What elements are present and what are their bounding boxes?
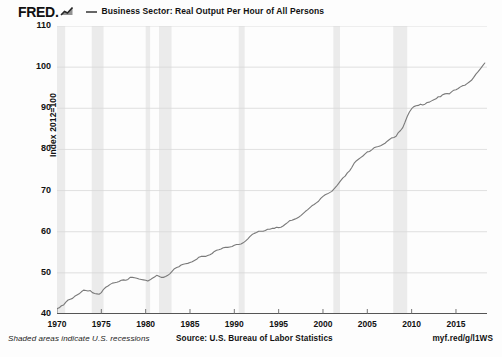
y-axis-tick-label: 110 bbox=[21, 20, 51, 30]
y-axis-tick-label: 80 bbox=[21, 143, 51, 153]
plot-area bbox=[57, 26, 487, 314]
chart-legend: Business Sector: Real Output Per Hour of… bbox=[86, 6, 325, 16]
x-axis-tick-label: 2000 bbox=[303, 319, 343, 329]
y-axis-tick-label: 60 bbox=[21, 226, 51, 236]
x-axis-tick-label: 2015 bbox=[436, 319, 476, 329]
recession-band bbox=[146, 26, 150, 314]
x-axis-tick-label: 1980 bbox=[126, 319, 166, 329]
fred-logo: FRED. bbox=[18, 3, 74, 20]
x-axis-tick-label: 2010 bbox=[392, 319, 432, 329]
recession-band bbox=[57, 26, 65, 314]
chart-line-icon bbox=[60, 3, 74, 19]
x-axis-tick-label: 1995 bbox=[259, 319, 299, 329]
y-axis-tick-label: 90 bbox=[21, 102, 51, 112]
x-axis-tick-label: 1990 bbox=[214, 319, 254, 329]
x-axis-tick-label: 1975 bbox=[81, 319, 121, 329]
x-axis-tick-label: 1985 bbox=[170, 319, 210, 329]
y-axis-tick-label: 100 bbox=[21, 61, 51, 71]
chart-footer: Shaded areas indicate U.S. recessions So… bbox=[0, 334, 502, 348]
y-axis-tick-label: 40 bbox=[21, 308, 51, 318]
recession-band bbox=[159, 26, 172, 314]
legend-series-label: Business Sector: Real Output Per Hour of… bbox=[102, 6, 325, 16]
y-axis-tick-label: 70 bbox=[21, 185, 51, 195]
series-line-chart bbox=[57, 26, 487, 314]
source-label: Source: U.S. Bureau of Labor Statistics bbox=[176, 334, 333, 343]
short-url[interactable]: myf.red/g/l1WS bbox=[432, 334, 493, 343]
recession-band bbox=[92, 26, 104, 314]
fred-chart-figure: FRED. Business Sector: Real Output Per H… bbox=[0, 0, 502, 357]
y-axis-tick-label: 50 bbox=[21, 267, 51, 277]
x-axis-tick-label: 1970 bbox=[37, 319, 77, 329]
recession-band bbox=[333, 26, 340, 314]
legend-line-swatch bbox=[86, 11, 97, 13]
x-axis-tick-label: 2005 bbox=[347, 319, 387, 329]
fred-logo-text: FRED. bbox=[18, 4, 59, 20]
recession-band bbox=[239, 26, 245, 314]
recession-band bbox=[393, 26, 407, 314]
recession-note: Shaded areas indicate U.S. recessions bbox=[8, 334, 150, 343]
chart-header: FRED. Business Sector: Real Output Per H… bbox=[0, 2, 502, 20]
data-series-line bbox=[57, 63, 485, 309]
